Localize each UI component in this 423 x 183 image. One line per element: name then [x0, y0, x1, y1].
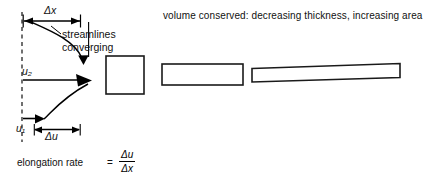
delta-x-dimension-arrow — [23, 15, 80, 28]
elongation-rate-label: elongation rate — [17, 158, 83, 168]
block-final — [252, 64, 400, 83]
fraction-numerator: Δu — [119, 149, 135, 161]
elongation-rate-fraction: Δu Δx — [119, 149, 135, 174]
streamlines-label-line1: streamlines — [62, 29, 116, 40]
delta-u-label: Δu — [45, 131, 58, 142]
block-intermediate — [162, 64, 243, 85]
equals-sign: = — [107, 158, 113, 168]
fraction-denominator: Δx — [119, 162, 135, 174]
u2-label: u₂ — [22, 66, 32, 77]
u1-label: u₁ — [16, 123, 25, 134]
u2-velocity-arrow — [23, 74, 92, 87]
volume-conserved-note: volume conserved: decreasing thickness, … — [163, 11, 423, 21]
u1-velocity-arrow — [23, 114, 45, 123]
delta-x-label: Δx — [44, 5, 56, 16]
block-initial — [106, 56, 144, 94]
streamline-curve-lower — [44, 84, 88, 119]
streamlines-label-line2: converging — [62, 42, 113, 53]
